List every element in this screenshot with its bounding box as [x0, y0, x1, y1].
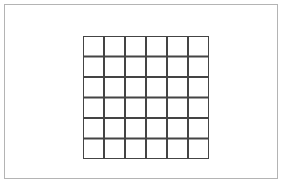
- diagram-canvas: [0, 0, 285, 186]
- grid-cell: [167, 98, 188, 119]
- grid-cell: [167, 36, 188, 57]
- grid-cell: [125, 57, 146, 78]
- grid-cell: [125, 139, 146, 160]
- grid-cell: [188, 36, 209, 57]
- grid-cell: [83, 77, 104, 98]
- grid-cell: [83, 139, 104, 160]
- grid-cell: [188, 118, 209, 139]
- grid-svg: [83, 36, 209, 159]
- grid-cell: [188, 57, 209, 78]
- grid-cell: [104, 57, 125, 78]
- grid-cell: [146, 36, 167, 57]
- grid-cell: [146, 139, 167, 160]
- grid-cell: [188, 139, 209, 160]
- grid-cell: [83, 118, 104, 139]
- grid-cell: [125, 118, 146, 139]
- grid-cell: [125, 77, 146, 98]
- grid-cell: [104, 36, 125, 57]
- grid-cell: [83, 36, 104, 57]
- grid-cell: [188, 77, 209, 98]
- grid-cell: [125, 36, 146, 57]
- grid-cell: [167, 77, 188, 98]
- grid-cell: [188, 98, 209, 119]
- grid-cell: [146, 77, 167, 98]
- grid-cell: [83, 98, 104, 119]
- grid-cell: [125, 98, 146, 119]
- grid-cell: [146, 98, 167, 119]
- grid-cell: [167, 139, 188, 160]
- grid-cell: [104, 118, 125, 139]
- outer-border: [4, 4, 278, 179]
- grid-cell: [167, 118, 188, 139]
- grid-cell: [146, 57, 167, 78]
- grid-cell: [83, 57, 104, 78]
- grid-cell: [104, 139, 125, 160]
- grid-cell: [146, 118, 167, 139]
- grid-cell: [104, 98, 125, 119]
- grid-cell: [104, 77, 125, 98]
- square-lattice-grid: [83, 36, 209, 159]
- grid-cell: [167, 57, 188, 78]
